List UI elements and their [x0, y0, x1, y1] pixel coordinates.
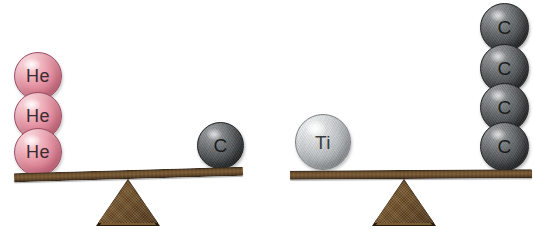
- balance-scale-right: Ti C C C C: [267, 0, 534, 230]
- atom-helium-bottom: He: [14, 128, 62, 176]
- balance-scale-left: He He He C: [0, 0, 267, 230]
- fulcrum-body: [100, 181, 156, 225]
- atom-label: He: [26, 67, 50, 85]
- atom-label: He: [26, 107, 50, 125]
- balance-scales-figure: He He He C Ti: [0, 0, 534, 230]
- atom-titanium-single: Ti: [295, 114, 351, 170]
- atom-label: C: [497, 98, 511, 117]
- atom-label: C: [213, 136, 227, 155]
- atom-label: C: [497, 137, 511, 156]
- atom-label: C: [497, 18, 511, 37]
- atom-carbon-stack-4: C: [480, 122, 529, 171]
- fulcrum-body: [376, 181, 432, 225]
- atom-carbon-single: C: [197, 122, 244, 169]
- atom-label: C: [497, 59, 511, 78]
- atom-label: He: [26, 143, 50, 161]
- atom-label: Ti: [315, 133, 331, 152]
